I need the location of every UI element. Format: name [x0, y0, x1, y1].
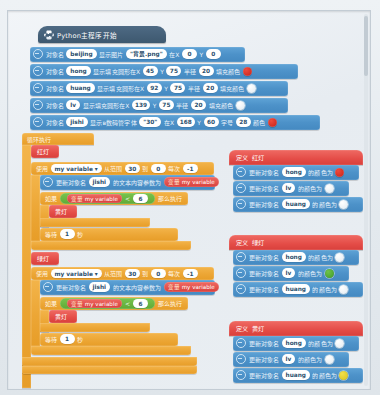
color-swatch[interactable] — [335, 168, 344, 177]
radius-field[interactable]: 20 — [203, 83, 218, 93]
comparison-operand-field[interactable]: 6 — [133, 299, 148, 309]
x-field[interactable]: 45 — [143, 66, 158, 76]
block-draw-circle-huang[interactable]: 对象名 huang 显示填充圆形在X 92 Y 75 半径 20 填充颜色 — [30, 81, 288, 96]
variable-reporter[interactable]: 变量 my variable — [67, 299, 122, 309]
x-field[interactable]: 139 — [132, 100, 150, 110]
set-color-huang-yellow[interactable]: 更新对象名 huang 的颜色为 — [233, 368, 363, 383]
fill-color-swatch[interactable] — [247, 84, 256, 93]
object-name-field[interactable]: huang — [282, 284, 310, 294]
text-field[interactable]: "30" — [139, 117, 161, 127]
font-size-field[interactable]: 28 — [236, 117, 251, 127]
variable-reporter[interactable]: 变量 my variable — [164, 177, 219, 187]
wait-block-2[interactable]: 等待 1 秒 — [40, 333, 178, 346]
object-name-field[interactable]: lv — [282, 354, 296, 364]
set-color-huang-off[interactable]: 更新对象名 huang 的颜色为 — [233, 197, 363, 212]
text-color-swatch[interactable] — [268, 118, 277, 127]
vertical-scrollbar[interactable] — [364, 14, 368, 386]
update-text-block-2[interactable]: 更新对象名 jishi 的文本内容参数为 变量 my variable — [40, 280, 215, 295]
scrollbar-thumb[interactable] — [364, 16, 368, 76]
set-color-hong-red[interactable]: 更新对象名 hong 的颜色为 — [233, 165, 359, 180]
loop-from-field[interactable]: 30 — [125, 164, 140, 174]
object-name-field[interactable]: hong — [282, 167, 306, 177]
color-swatch[interactable] — [325, 269, 334, 278]
color-swatch[interactable] — [325, 355, 334, 364]
y-field[interactable]: 0 — [206, 49, 221, 59]
block-workspace[interactable]: Python主程序开始 对象名 beijing 显示图片 "背景.png" 在X… — [7, 10, 371, 390]
y-field[interactable]: 75 — [170, 83, 185, 93]
if-block-2[interactable]: 如果 变量 my variable < 6 那么执行 — [40, 297, 188, 310]
wait-block-1[interactable]: 等待 1 秒 — [40, 228, 178, 241]
loop-from-field[interactable]: 30 — [125, 269, 140, 279]
object-name-field[interactable]: huang — [282, 370, 310, 380]
collapse-icon[interactable] — [236, 338, 246, 348]
object-name-field[interactable]: huang — [282, 199, 310, 209]
loop-step-field[interactable]: -1 — [183, 269, 198, 279]
object-name-field[interactable]: huang — [66, 83, 94, 93]
update-text-object-field[interactable]: jishi — [89, 282, 111, 292]
loop-variable-dropdown[interactable]: my variable ▾ — [51, 164, 102, 174]
loop-variable-dropdown[interactable]: my variable ▾ — [51, 269, 102, 279]
update-text-block-1[interactable]: 更新对象名 jishi 的文本内容参数为 变量 my variable — [40, 175, 215, 190]
if-block-1[interactable]: 如果 变量 my variable < 6 那么执行 — [40, 192, 188, 205]
color-swatch[interactable] — [339, 285, 348, 294]
color-swatch[interactable] — [325, 184, 334, 193]
wait-seconds-field[interactable]: 1 — [60, 229, 75, 239]
color-swatch[interactable] — [335, 253, 344, 262]
collapse-icon[interactable] — [236, 167, 246, 177]
color-swatch[interactable] — [335, 339, 344, 348]
comparison-operand-field[interactable]: 6 — [133, 194, 148, 204]
for-loop-block-2[interactable]: 使用 my variable ▾ 从范围 30 到 0 每次 -1 — [31, 267, 214, 280]
object-name-field[interactable]: lv — [282, 268, 296, 278]
image-path-field[interactable]: "背景.png" — [126, 49, 167, 59]
call-yellow-light-block-1[interactable]: 黄灯 — [49, 205, 77, 218]
loop-header[interactable]: 循环执行 — [22, 133, 94, 145]
loop-step-field[interactable]: -1 — [183, 164, 198, 174]
collapse-icon[interactable] — [236, 252, 246, 262]
wait-seconds-field[interactable]: 1 — [60, 334, 75, 344]
collapse-icon[interactable] — [33, 100, 43, 110]
fill-color-swatch[interactable] — [243, 67, 252, 76]
collapse-icon[interactable] — [43, 177, 53, 187]
set-color-lv-green[interactable]: 更新对象名 lv 的颜色为 — [233, 266, 349, 281]
loop-to-field[interactable]: 0 — [151, 269, 166, 279]
fill-color-swatch[interactable] — [236, 101, 245, 110]
color-swatch[interactable] — [339, 371, 348, 380]
collapse-icon[interactable] — [33, 66, 43, 76]
set-color-lv-off-3[interactable]: 更新对象名 lv 的颜色为 — [233, 352, 349, 367]
call-red-light-block[interactable]: 红灯 — [31, 145, 59, 158]
object-name-field[interactable]: hong — [282, 252, 306, 262]
block-draw-circle-hong[interactable]: 对象名 hong 显示填充圆形在X 45 Y 75 半径 20 填充颜色 — [30, 64, 298, 79]
collapse-icon[interactable] — [236, 183, 246, 193]
radius-field[interactable]: 20 — [191, 100, 206, 110]
block-draw-circle-lv[interactable]: 对象名 lv 显示填充圆形在X 139 Y 75 半径 20 填充颜色 — [30, 98, 288, 113]
radius-field[interactable]: 20 — [199, 66, 214, 76]
block-show-digit-text[interactable]: 对象名 jishi 显示в数码管字体 "30" 在X 168 Y 60 字号 2… — [30, 115, 320, 130]
update-text-object-field[interactable]: jishi — [89, 177, 111, 187]
color-swatch[interactable] — [339, 200, 348, 209]
variable-reporter[interactable]: 变量 my variable — [164, 282, 219, 292]
collapse-icon[interactable] — [236, 268, 246, 278]
set-color-lv-off[interactable]: 更新对象名 lv 的颜色为 — [233, 181, 349, 196]
variable-reporter[interactable]: 变量 my variable — [67, 194, 122, 204]
comparison-boolean[interactable]: 变量 my variable < 6 — [60, 298, 155, 309]
collapse-icon[interactable] — [43, 282, 53, 292]
object-name-field[interactable]: lv — [66, 100, 80, 110]
program-start-hat-block[interactable]: Python主程序开始 — [38, 26, 166, 43]
x-field[interactable]: 168 — [177, 117, 195, 127]
object-name-field[interactable]: hong — [282, 338, 306, 348]
collapse-icon[interactable] — [33, 83, 43, 93]
call-yellow-light-block-2[interactable]: 黄灯 — [49, 310, 77, 323]
set-color-hong-off-3[interactable]: 更新对象名 hong 的颜色为 — [233, 336, 359, 351]
collapse-icon[interactable] — [236, 370, 246, 380]
loop-to-field[interactable]: 0 — [151, 164, 166, 174]
y-field[interactable]: 75 — [166, 66, 181, 76]
y-field[interactable]: 60 — [204, 117, 219, 127]
block-show-image[interactable]: 对象名 beijing 显示图片 "背景.png" 在X 0 Y 0 — [30, 47, 245, 62]
set-color-huang-off-2[interactable]: 更新对象名 huang 的颜色为 — [233, 282, 363, 297]
collapse-icon[interactable] — [236, 354, 246, 364]
define-red-light-hat[interactable]: 定义 红灯 — [229, 150, 363, 165]
y-field[interactable]: 75 — [159, 100, 174, 110]
define-yellow-light-hat[interactable]: 定义 黄灯 — [229, 321, 363, 336]
comparison-boolean[interactable]: 变量 my variable < 6 — [60, 193, 155, 204]
collapse-icon[interactable] — [236, 284, 246, 294]
